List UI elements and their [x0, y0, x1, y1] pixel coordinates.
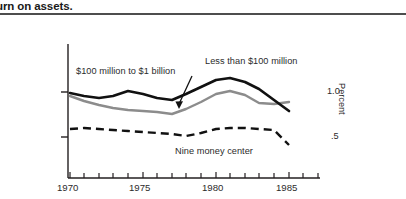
x-tick-label-1975: 1975 [129, 182, 150, 193]
series-line-money-center [70, 128, 289, 145]
annotation-money-center: Nine money center [175, 146, 253, 156]
figure-return-on-assets: urn on assets. [0, 0, 406, 199]
annotation-mid-size-banks: $100 million to $1 billion [76, 66, 175, 76]
x-tick-label-1985: 1985 [276, 182, 297, 193]
x-tick-marks [70, 172, 318, 178]
annotation-small-banks: Less than $100 million [205, 56, 298, 66]
x-tick-label-1970: 1970 [57, 182, 78, 193]
x-tick-label-1980: 1980 [202, 182, 223, 193]
page-title: urn on assets. [0, 0, 73, 12]
y-tick-label-2: .5 [331, 131, 339, 141]
y-axis-title: Percent [337, 83, 347, 115]
